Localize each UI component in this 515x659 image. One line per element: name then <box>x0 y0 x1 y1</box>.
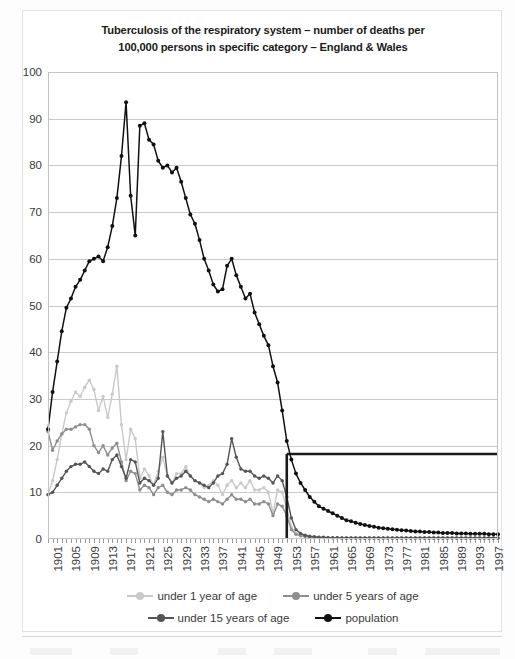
data-point <box>157 486 160 489</box>
data-point <box>88 379 91 382</box>
x-axis-tick-label: 1929 <box>181 546 193 572</box>
legend-item-population[interactable]: population <box>315 612 398 624</box>
data-point <box>87 259 91 263</box>
x-axis-tick-label: 1917 <box>125 546 137 572</box>
data-point <box>441 531 445 535</box>
x-axis-tick <box>85 539 86 543</box>
data-point <box>446 536 449 539</box>
data-point <box>78 463 81 466</box>
data-point <box>101 259 105 263</box>
data-point <box>248 292 252 296</box>
data-point <box>184 465 187 468</box>
x-axis-tick-label: 1993 <box>474 546 486 572</box>
data-point <box>409 529 413 533</box>
legend-row-bottom: under 15 years of age population <box>48 607 498 629</box>
legend-dot-1 <box>292 592 300 600</box>
data-point <box>262 334 266 338</box>
data-point <box>161 456 164 459</box>
y-axis-tick-label: 30 <box>29 393 42 405</box>
data-point <box>69 428 72 431</box>
data-point <box>290 516 293 519</box>
data-point <box>308 534 311 537</box>
legend-row-top: under 1 year of age under 5 years of age <box>48 585 498 607</box>
data-point <box>51 390 55 394</box>
data-point <box>244 470 247 473</box>
x-axis-tick <box>278 539 279 543</box>
data-point <box>129 194 133 198</box>
x-axis-tick <box>94 539 95 543</box>
chart-legend: under 1 year of age under 5 years of age… <box>48 585 498 629</box>
data-point <box>60 477 63 480</box>
x-axis-tick <box>200 539 201 543</box>
data-point <box>221 502 224 505</box>
data-point <box>115 453 118 456</box>
data-point <box>478 536 481 539</box>
data-point <box>184 196 188 200</box>
data-point <box>189 488 192 491</box>
x-axis-tick-label: 1933 <box>199 546 211 572</box>
x-axis-tick <box>324 539 325 543</box>
legend-item-under-5[interactable]: under 5 years of age <box>283 590 419 602</box>
data-point <box>69 465 72 468</box>
legend-dot-3 <box>324 614 332 622</box>
data-point <box>395 528 399 532</box>
data-point <box>271 514 274 517</box>
legend-item-under-15[interactable]: under 15 years of age <box>148 612 290 624</box>
data-point <box>212 481 215 484</box>
x-axis-tick-label: 1905 <box>70 546 82 572</box>
data-point <box>317 504 321 508</box>
data-point <box>202 484 205 487</box>
data-point <box>239 498 242 501</box>
data-point <box>390 527 394 531</box>
data-point <box>386 536 389 539</box>
data-point <box>492 536 495 539</box>
data-point <box>51 479 54 482</box>
data-point <box>331 536 334 539</box>
data-point <box>129 428 132 431</box>
x-axis-tick <box>48 539 49 543</box>
legend-item-under-1[interactable]: under 1 year of age <box>127 590 257 602</box>
data-point <box>271 481 274 484</box>
data-point <box>303 534 306 537</box>
data-point <box>299 532 302 535</box>
data-point <box>207 486 210 489</box>
x-axis-tick <box>222 539 223 543</box>
x-axis-tick-label: 1961 <box>328 546 340 572</box>
y-axis-tick-label: 0 <box>36 533 42 545</box>
footer-cropped-caption <box>30 648 500 655</box>
x-axis-tick <box>135 539 136 543</box>
data-point <box>46 493 49 496</box>
data-point <box>294 472 298 476</box>
data-point <box>138 124 142 128</box>
data-point <box>253 502 256 505</box>
x-axis-tick <box>112 539 113 543</box>
data-point <box>473 536 476 539</box>
data-point <box>409 536 412 539</box>
data-point <box>478 532 482 536</box>
data-point <box>175 477 178 480</box>
y-axis-tick-label: 20 <box>29 440 42 452</box>
data-point <box>138 481 141 484</box>
data-point <box>143 484 146 487</box>
data-point <box>216 289 220 293</box>
data-point <box>248 479 251 482</box>
data-point <box>464 531 468 535</box>
x-axis-tick <box>195 539 196 543</box>
data-point <box>202 498 205 501</box>
x-axis-tick <box>172 539 173 543</box>
x-axis-tick-label: 1913 <box>107 546 119 572</box>
data-point <box>134 472 137 475</box>
data-point <box>92 388 95 391</box>
data-point <box>129 470 132 473</box>
data-point <box>74 285 78 289</box>
data-point <box>92 257 96 261</box>
legend-label-under-1: under 1 year of age <box>157 590 257 602</box>
data-point <box>69 400 72 403</box>
x-axis-tick <box>255 539 256 543</box>
data-point <box>271 364 275 368</box>
x-axis-tick-label: 1989 <box>456 546 468 572</box>
data-point <box>262 500 265 503</box>
x-axis-tick <box>291 539 292 543</box>
data-point <box>267 477 270 480</box>
x-axis-tick-label: 1909 <box>89 546 101 572</box>
